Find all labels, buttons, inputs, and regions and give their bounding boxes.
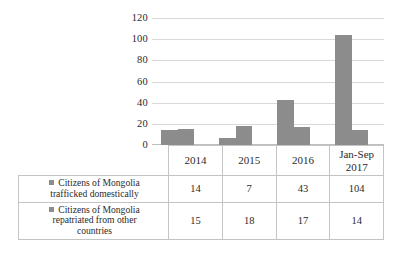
y-tick-label-120: 120: [132, 13, 148, 24]
column-header-jan-sep-2017: Jan-Sep 2017: [330, 146, 384, 176]
legend-text-series-0-line1: Citizens of Mongolia: [58, 177, 140, 188]
bar-group-2014: [152, 18, 210, 145]
year-label-2017-line2: 2017: [332, 161, 381, 174]
cell-series-1-2016: 17: [276, 202, 330, 239]
legend-cell-series-0: Citizens of Mongolia trafficked domestic…: [19, 176, 169, 202]
bar-series-1-2016: [294, 127, 310, 145]
column-header-2016: 2016: [276, 146, 330, 176]
bar-series-0-jan-sep-2017: [335, 35, 351, 145]
legend-text-series-1-line2: repatriated from other: [52, 214, 136, 225]
bar-series-1-jan-sep-2017: [352, 130, 368, 145]
cell-series-0-2014: 14: [169, 176, 223, 202]
table-row-trafficked-domestically: Citizens of Mongolia trafficked domestic…: [19, 176, 384, 202]
plot-area: [152, 18, 384, 145]
table-corner-cell: [19, 146, 169, 176]
y-tick-label-80: 80: [137, 55, 148, 66]
cell-series-1-2017: 14: [330, 202, 384, 239]
legend-label-series-1: Citizens of Mongolia repatriated from ot…: [21, 205, 166, 237]
legend-swatch-icon-series-1: [49, 207, 54, 212]
year-label-2015: 2015: [238, 154, 260, 166]
y-tick-label-20: 20: [137, 119, 148, 130]
bar-group-jan-sep-2017: [326, 18, 384, 145]
column-header-2015: 2015: [222, 146, 276, 176]
bar-chart-figure: 120 100 80 60 40 20 0 2014: [0, 0, 400, 265]
bar-series-0-2016: [277, 100, 293, 146]
legend-text-series-0-line2: trafficked domestically: [50, 188, 139, 199]
bar-series-1-2015: [236, 126, 252, 145]
cell-series-1-2014: 15: [169, 202, 223, 239]
legend-cell-series-1: Citizens of Mongolia repatriated from ot…: [19, 202, 169, 239]
cell-series-0-2016: 43: [276, 176, 330, 202]
bars-layer: [152, 18, 384, 145]
y-tick-label-40: 40: [137, 97, 148, 108]
y-tick-label-60: 60: [137, 76, 148, 87]
bar-series-0-2015: [219, 138, 235, 145]
table-row-repatriated-from-other-countries: Citizens of Mongolia repatriated from ot…: [19, 202, 384, 239]
bar-group-2016: [268, 18, 326, 145]
column-header-2014: 2014: [169, 146, 223, 176]
year-label-2016: 2016: [292, 154, 314, 166]
year-label-2014: 2014: [184, 154, 206, 166]
y-axis-tick-labels: 120 100 80 60 40 20 0: [108, 18, 148, 145]
year-label-2017-line1: Jan-Sep: [332, 148, 381, 161]
legend-text-series-1-line3: countries: [77, 225, 112, 236]
legend-swatch-icon-series-0: [49, 180, 54, 185]
legend-text-series-1-line1: Citizens of Mongolia: [58, 204, 140, 215]
cell-series-1-2015: 18: [222, 202, 276, 239]
y-tick-label-100: 100: [132, 34, 148, 45]
bar-series-0-2014: [161, 130, 177, 145]
cell-series-0-2017: 104: [330, 176, 384, 202]
data-table: 2014 2015 2016 Jan-Sep 2017 Citizen: [18, 145, 384, 240]
bar-group-2015: [210, 18, 268, 145]
cell-series-0-2015: 7: [222, 176, 276, 202]
legend-label-series-0: Citizens of Mongolia trafficked domestic…: [21, 178, 166, 199]
table-header-row: 2014 2015 2016 Jan-Sep 2017: [19, 146, 384, 176]
bar-series-1-2014: [178, 129, 194, 145]
